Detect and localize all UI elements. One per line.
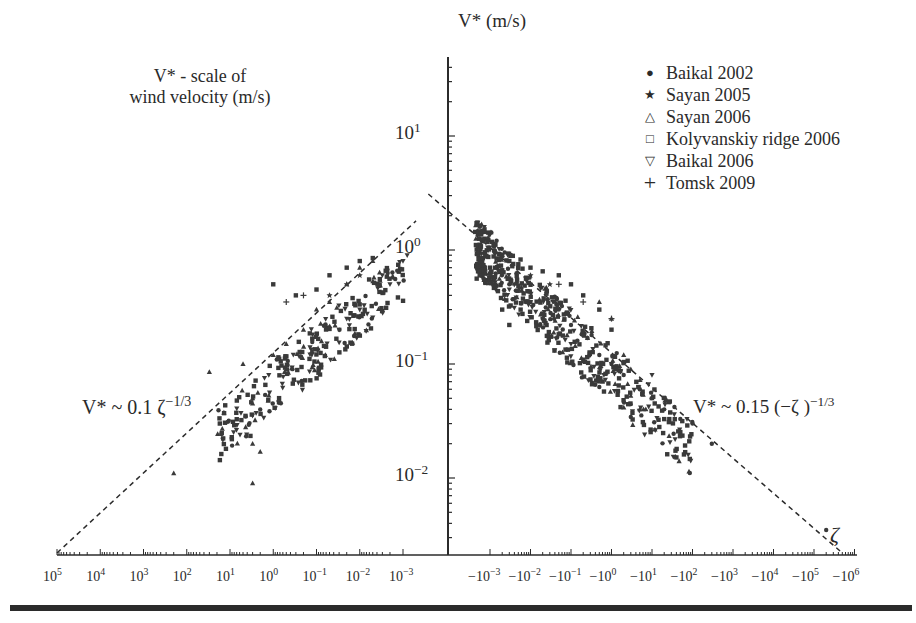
x-tick-label: −10−3 — [468, 566, 500, 585]
legend-item-4: ▽Baikal 2006 — [640, 150, 840, 172]
legend-marker-icon: ● — [640, 62, 660, 84]
legend-marker-icon: △ — [640, 106, 660, 128]
legend-marker-icon: ★ — [640, 84, 660, 106]
legend-label: Sayan 2006 — [666, 106, 751, 128]
legend-marker-icon: ▽ — [640, 150, 660, 172]
bottom-rule — [10, 605, 912, 611]
x-tick-label: −104 — [752, 566, 779, 585]
y-tick-label: 10−2 — [395, 462, 428, 486]
fit-label-left-text: V* ~ 0.1 ζ — [82, 396, 166, 418]
legend-item-0: ●Baikal 2002 — [640, 62, 840, 84]
x-tick-label: −103 — [711, 566, 738, 585]
x-tick-label: 100 — [259, 566, 278, 585]
x-tick-label: −106 — [833, 566, 860, 585]
x-tick-label: −10−2 — [509, 566, 541, 585]
fit-lines — [57, 194, 842, 553]
y-axis-title-text: V* (m/s) — [458, 10, 526, 31]
fit-label-right-text: V* ~ 0.15 (−ζ ) — [693, 396, 810, 417]
fit-label-right: V* ~ 0.15 (−ζ )−1/3 — [693, 394, 835, 418]
x-axis-symbol-text: ζ — [830, 522, 839, 547]
legend-marker-icon: + — [640, 172, 660, 194]
x-tick-label: −105 — [792, 566, 819, 585]
data-points — [171, 220, 828, 532]
x-tick-label: −100 — [590, 566, 617, 585]
x-tick-label: 102 — [173, 566, 192, 585]
x-tick-label: 10−1 — [303, 566, 327, 585]
fit-label-right-exponent: −1/3 — [810, 394, 835, 409]
legend: ●Baikal 2002★Sayan 2005△Sayan 2006□Kolyv… — [640, 62, 840, 194]
y-tick-label: 100 — [395, 234, 421, 258]
x-tick-label: 105 — [43, 566, 62, 585]
left-note: V* - scale of wind velocity (m/s) — [110, 66, 290, 108]
x-tick-label: −10−1 — [549, 566, 581, 585]
x-tick-label: 103 — [130, 566, 149, 585]
x-tick-label: 10−3 — [389, 566, 413, 585]
legend-label: Baikal 2002 — [666, 62, 754, 84]
x-tick-label: −101 — [630, 566, 657, 585]
legend-item-3: □Kolyvanskiy ridge 2006 — [640, 128, 840, 150]
y-tick-label: 10−1 — [395, 348, 428, 372]
x-tick-label: 101 — [216, 566, 235, 585]
legend-label: Kolyvanskiy ridge 2006 — [666, 128, 840, 150]
left-note-line2: wind velocity (m/s) — [110, 87, 290, 108]
legend-label: Tomsk 2009 — [666, 172, 755, 194]
x-tick-label: 10−2 — [346, 566, 370, 585]
x-axis-symbol: ζ — [830, 522, 839, 548]
legend-label: Sayan 2005 — [666, 84, 751, 106]
x-tick-label: 104 — [86, 566, 105, 585]
fit-line-0 — [57, 221, 416, 553]
legend-marker-icon: □ — [640, 128, 660, 150]
legend-item-1: ★Sayan 2005 — [640, 84, 840, 106]
fit-label-left-exponent: −1/3 — [166, 394, 192, 409]
left-note-line1: V* - scale of — [110, 66, 290, 87]
y-tick-label: 101 — [395, 120, 421, 144]
legend-label: Baikal 2006 — [666, 150, 754, 172]
y-axis-title: V* (m/s) — [458, 10, 526, 32]
legend-item-2: △Sayan 2006 — [640, 106, 840, 128]
legend-item-5: +Tomsk 2009 — [640, 172, 840, 194]
x-tick-label: −102 — [671, 566, 698, 585]
fit-label-left: V* ~ 0.1 ζ−1/3 — [82, 394, 191, 419]
